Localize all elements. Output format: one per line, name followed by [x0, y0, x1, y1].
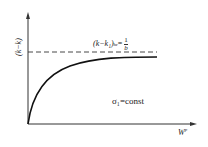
y-axis-arrow-icon	[26, 12, 30, 19]
asymptote-label: (k−k₁)hr= 1 b	[93, 37, 128, 52]
asymptote-expression: (k−k₁)	[93, 39, 114, 48]
x-axis-label-main: W	[178, 128, 185, 137]
saturation-curve	[28, 57, 157, 124]
x-axis-label: Wp	[178, 127, 187, 137]
asymptote-equals: =	[118, 39, 123, 48]
fraction-denominator: b	[124, 45, 128, 52]
x-axis-label-superscript: p	[185, 127, 188, 132]
asymptote-fraction: 1 b	[124, 37, 128, 52]
diagram-canvas	[0, 0, 208, 147]
y-axis-label: (k−k)	[14, 38, 23, 56]
x-axis-arrow-icon	[190, 122, 197, 126]
condition-label: σ₁=const	[112, 96, 144, 106]
